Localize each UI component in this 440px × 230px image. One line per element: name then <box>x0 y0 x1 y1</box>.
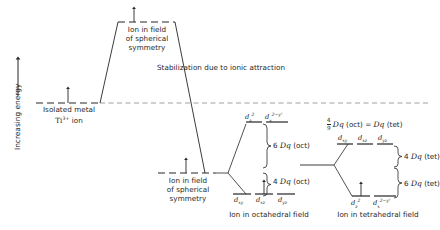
tet-lower-splitting-label: 6 Dq (tet) <box>404 179 440 188</box>
tetrahedral-field-caption: Ion in tetrahedral field <box>322 211 434 220</box>
tet-orbital-label-dxz: dxz <box>358 134 367 143</box>
ion-charge: 3+ <box>62 116 69 121</box>
oct-orbital-label-dyz: dyz <box>278 196 287 205</box>
tet-orbital-label-dyz: dyz <box>378 134 387 143</box>
tet-lower-brace <box>394 168 402 198</box>
tet-orbital-label-dz2: dz2 <box>351 198 360 209</box>
isolated-metal-label-line2: Ti3+ ion <box>33 115 105 126</box>
spherical-mid-label-line3: symmetry <box>146 195 230 204</box>
oct-lower-splitting-label: 4 Dq (oct) <box>273 177 310 186</box>
tet-upper-brace <box>394 146 402 167</box>
oct-orbital-label-dxz: dxz <box>256 196 265 205</box>
oct-fan-up <box>228 124 246 173</box>
tet-upper-splitting-label: 4 Dq (tet) <box>404 152 440 161</box>
spherical-top-label-line3: symmetry <box>104 44 190 53</box>
octahedral-field-caption: Ion in octahedral field <box>213 211 325 220</box>
oct-upper-splitting-label: 6 Dq (oct) <box>273 141 310 150</box>
oct-upper-brace <box>263 124 271 168</box>
tet-fan-up <box>334 144 348 165</box>
oct-fan-down <box>228 173 246 194</box>
dq-relation-fraction: 4 9 <box>327 118 331 131</box>
tet-orbital-label-dxy: dxy <box>338 134 347 143</box>
y-axis-label: Increasing energy <box>13 84 22 150</box>
oct-orbital-label-dz2: dz2 <box>245 112 254 123</box>
tet-fan-down <box>334 165 352 196</box>
ion-word: ion <box>72 116 83 125</box>
stabilization-label: Stabilization due to ionic attraction <box>157 64 285 73</box>
oct-orbital-label-dxy: dxy <box>234 196 243 205</box>
dq-relation-label: 4 9 Dq (oct) = Dq (tet) <box>327 118 402 131</box>
tet-orbital-label-dx2y2: dx2−y² <box>373 198 390 209</box>
isolated-metal-label-line1: Isolated metal <box>33 106 105 115</box>
oct-orbital-label-dx2y2: dx2−y² <box>265 112 282 123</box>
